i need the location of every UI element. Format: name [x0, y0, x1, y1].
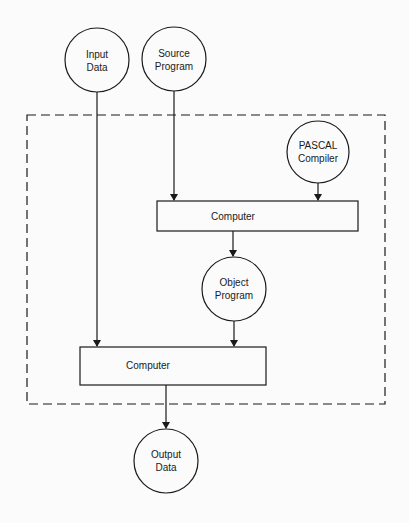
diagram-canvas: Input Data Source Program PASCAL Compile… [0, 0, 409, 523]
input-data-line1: Input [86, 49, 108, 60]
node-output-data: Output Data [134, 429, 198, 493]
object-program-line2: Program [215, 290, 253, 301]
node-source-program: Source Program [142, 27, 206, 91]
object-program-line1: Object [220, 277, 249, 288]
node-object-program: Object Program [202, 257, 266, 321]
node-computer-1: Computer [157, 201, 358, 231]
node-computer-2: Computer [80, 347, 266, 385]
flowchart: Input Data Source Program PASCAL Compile… [0, 0, 409, 523]
output-data-line2: Data [155, 462, 177, 473]
source-program-line1: Source [158, 48, 190, 59]
input-data-line2: Data [86, 62, 108, 73]
node-pascal-compiler: PASCAL Compiler [287, 121, 349, 183]
computer-1-label: Computer [211, 211, 256, 222]
pascal-compiler-line1: PASCAL [299, 140, 338, 151]
pascal-compiler-line2: Compiler [298, 153, 339, 164]
node-input-data: Input Data [65, 28, 129, 92]
source-program-line2: Program [155, 61, 193, 72]
output-data-line1: Output [151, 449, 181, 460]
computer-2-label: Computer [126, 360, 171, 371]
